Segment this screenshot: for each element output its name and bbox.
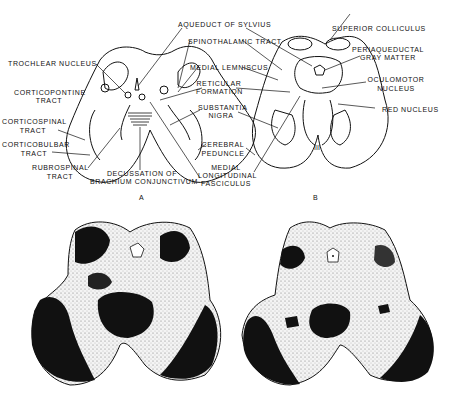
photo-section-left	[31, 222, 220, 385]
stained-sections	[0, 0, 458, 404]
photo-section-right	[242, 222, 434, 385]
